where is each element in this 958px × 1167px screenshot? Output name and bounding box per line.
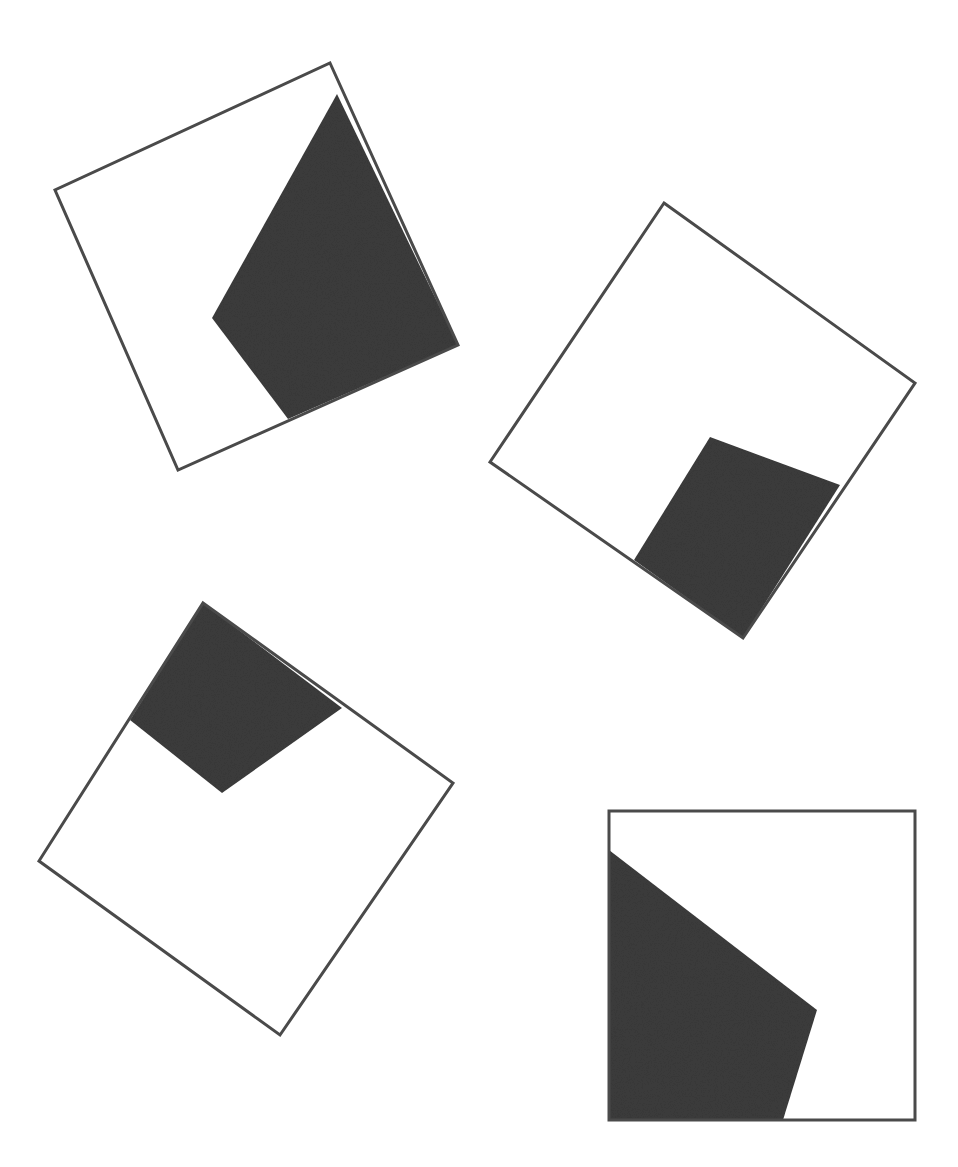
shaded-squares-figure: [0, 0, 958, 1167]
page-background: [0, 0, 958, 1167]
